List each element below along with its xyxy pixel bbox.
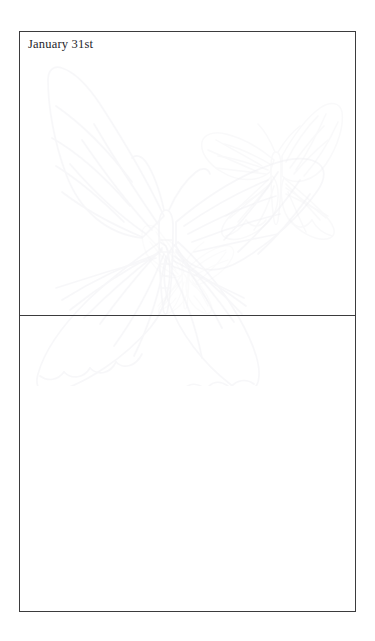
entry-date-heading: January 31st — [28, 37, 93, 52]
entry-panel-bottom-inner — [20, 316, 355, 612]
entry-panel-top-inner: January 31st — [20, 32, 355, 315]
entry-panel-bottom[interactable] — [20, 316, 355, 612]
entry-writing-area-bottom[interactable] — [28, 322, 347, 607]
journal-page-frame: January 31st — [19, 31, 356, 612]
entry-writing-area-top[interactable] — [28, 58, 347, 309]
panel-stack: January 31st — [20, 32, 355, 611]
entry-panel-top[interactable]: January 31st — [20, 32, 355, 316]
